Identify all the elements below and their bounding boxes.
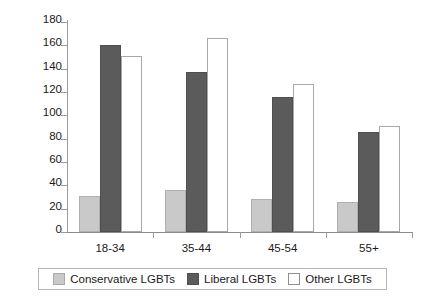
y-axis-tick-label: 120	[43, 84, 62, 96]
x-axis-tick-label: 35-44	[153, 242, 239, 254]
bar-liberal	[100, 45, 121, 232]
legend-label-conservative: Conservative LGBTs	[70, 273, 175, 285]
x-axis-tick-mark	[153, 232, 154, 238]
y-axis-tick-label: 60	[49, 154, 62, 166]
legend-label-other: Other LGBTs	[305, 273, 371, 285]
y-axis-tick-mark	[61, 232, 67, 233]
x-axis-tick-label: 55+	[326, 242, 412, 254]
x-axis-tick-mark	[326, 232, 327, 238]
legend-swatch-other	[288, 273, 300, 285]
plot-area	[67, 22, 412, 232]
x-axis-tick-label: 45-54	[240, 242, 326, 254]
y-axis-tick-label: 100	[43, 107, 62, 119]
bar-other	[293, 84, 314, 232]
bar-conservative	[79, 196, 100, 232]
legend-label-liberal: Liberal LGBTs	[204, 273, 276, 285]
y-axis-tick-label: 40	[49, 177, 62, 189]
legend-entry-conservative: Conservative LGBTs	[53, 273, 175, 285]
bar-conservative	[337, 202, 358, 232]
y-axis-tick-label: 140	[43, 61, 62, 73]
x-axis-tick-mark	[240, 232, 241, 238]
bar-other	[207, 38, 228, 232]
bar-conservative	[251, 199, 272, 232]
y-axis-tick-label: 20	[49, 201, 62, 213]
bar-group	[79, 22, 142, 232]
bar-chart: 020406080100120140160180 18-3435-4445-54…	[0, 0, 427, 301]
legend-swatch-liberal	[187, 273, 199, 285]
legend-entry-other: Other LGBTs	[288, 273, 371, 285]
y-axis-tick-label: 80	[49, 131, 62, 143]
bar-conservative	[165, 190, 186, 232]
legend-entry-liberal: Liberal LGBTs	[187, 273, 276, 285]
bar-group	[337, 22, 400, 232]
bar-other	[121, 56, 142, 232]
bar-group	[165, 22, 228, 232]
y-axis-tick-label: 180	[43, 14, 62, 26]
y-axis-tick-label: 0	[56, 224, 62, 236]
chart-legend: Conservative LGBTsLiberal LGBTsOther LGB…	[38, 268, 387, 290]
y-axis-tick-label: 160	[43, 37, 62, 49]
bar-other	[379, 126, 400, 232]
legend-swatch-conservative	[53, 273, 65, 285]
x-axis-tick-mark	[412, 232, 413, 238]
bar-group	[251, 22, 314, 232]
bar-liberal	[272, 97, 293, 232]
bar-liberal	[358, 132, 379, 232]
bar-liberal	[186, 72, 207, 232]
x-axis-tick-label: 18-34	[67, 242, 153, 254]
